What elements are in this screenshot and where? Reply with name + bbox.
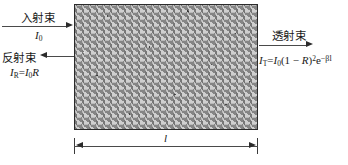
- transmitted-exponent: −βl: [321, 54, 332, 63]
- transmitted-beam-line: [259, 45, 306, 46]
- incident-beam-label: 入射束: [21, 9, 55, 25]
- slab-speckle-texture: [75, 5, 257, 129]
- transmitted-reflectance: R: [302, 54, 309, 66]
- reflected-beam-formula: IR=I0R: [10, 66, 39, 80]
- transmitted-beam-label: 透射束: [272, 27, 306, 43]
- absorbing-medium-slab: [74, 4, 258, 130]
- reflected-beam-label: 反射束: [2, 49, 36, 65]
- incident-beam-intensity: I0: [35, 29, 42, 43]
- reflected-beam-arrowhead-icon: [40, 52, 47, 58]
- reflected-beam-line: [47, 56, 74, 57]
- transmitted-bracket-open: (1 −: [281, 54, 302, 66]
- incident-beam-arrowhead-icon: [66, 22, 73, 28]
- thickness-dimension-line: [74, 146, 258, 147]
- incident-intensity-subscript: 0: [39, 34, 43, 43]
- dimension-arrowhead-right-icon: [249, 142, 256, 148]
- transmitted-beam-formula: IT=I0(1 − R)2e−βl: [259, 54, 332, 68]
- dimension-arrowhead-left-icon: [76, 142, 83, 148]
- reflected-reflectance: R: [32, 66, 39, 78]
- optical-absorption-diagram: 入射束 I0 反射束 IR=I0R 透射束 IT=I0(1 − R)2e−βl …: [0, 0, 348, 165]
- thickness-label: l: [164, 132, 167, 144]
- transmitted-beam-arrowhead-icon: [306, 41, 313, 47]
- incident-beam-line: [2, 26, 66, 27]
